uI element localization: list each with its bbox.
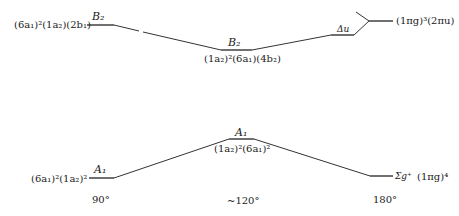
upper-left-connector-a — [114, 25, 139, 31]
upper-middle-config: (1a₂)²(6a₁)(4b₂) — [204, 54, 281, 64]
upper-left-connector-b — [143, 32, 221, 50]
angle-120: ~120° — [227, 196, 259, 206]
upper-right-connector — [252, 35, 331, 50]
lower-right-connector — [254, 139, 370, 176]
lower-right-symmetry: Σg⁺ — [395, 172, 412, 181]
upper-right-symmetry: Δu — [337, 25, 349, 34]
upper-left-symmetry: B₂ — [92, 11, 105, 22]
lower-left-config: (6a₁)²(1a₂)² — [31, 174, 87, 184]
lower-middle-symmetry: A₁ — [235, 127, 247, 138]
upper-left-config: (6a₁)²(1a₂)(2b₁) — [14, 20, 91, 30]
lower-left-symmetry: A₁ — [94, 164, 106, 175]
lower-middle-config: (1a₂)²(6a₁)² — [214, 144, 270, 154]
lower-left-connector — [114, 139, 229, 178]
upper-split-branch — [356, 12, 369, 21]
upper-right-config: (1πg)³(2πu) — [396, 16, 454, 26]
upper-middle-symmetry: B₂ — [228, 37, 241, 48]
angle-180: 180° — [373, 195, 397, 205]
angle-90: 90° — [92, 195, 110, 205]
lower-right-config: (1πg)⁴ — [417, 172, 448, 182]
upper-split-connector — [354, 21, 369, 35]
